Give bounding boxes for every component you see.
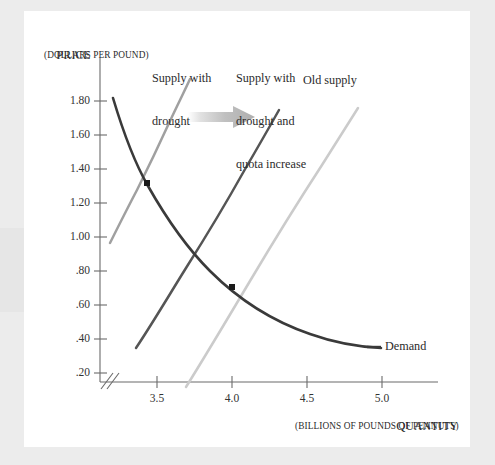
figure-root: PRICE (DOLLARS PER POUND) 1.80 1.60 1.40…: [0, 0, 495, 465]
x-tick-label: 5.0: [362, 392, 402, 406]
y-tick-label: 1.60: [54, 128, 90, 142]
y-tick-label: .60: [54, 298, 90, 312]
y-tick-label: .20: [54, 366, 90, 380]
curve-label-demand: Demand: [385, 339, 426, 353]
curve-label-supply-with-drought-and-quota-increase: Supply with drought and quota increase: [236, 42, 306, 200]
curve-label-supply-with-drought: Supply with drought: [152, 42, 211, 157]
x-axis-break-marks: [101, 373, 119, 389]
y-axis-subtitle: (DOLLARS PER POUND): [44, 50, 149, 61]
x-tick-label: 3.5: [137, 392, 177, 406]
curve-label-quota-line2: drought and: [236, 114, 306, 128]
y-tick-label: .40: [54, 332, 90, 346]
y-tick-label: 1.80: [54, 94, 90, 108]
curve-label-supply-with-drought-line1: Supply with: [152, 71, 211, 85]
equilibrium-dot-old: [229, 284, 235, 290]
x-tick-label: 4.5: [287, 392, 327, 406]
x-axis-subtitle: (BILLIONS OF POUNDS OF PEANUTS): [295, 421, 459, 432]
curve-label-quota-line1: Supply with: [236, 71, 306, 85]
y-tick-label: 1.40: [54, 162, 90, 176]
y-tick-label: 1.00: [54, 230, 90, 244]
curve-label-quota-line3: quota increase: [236, 157, 306, 171]
equilibrium-dot-new: [144, 180, 150, 186]
y-tick-label: 1.20: [54, 196, 90, 210]
curve-label-old-supply: Old supply: [303, 73, 357, 87]
curve-label-supply-with-drought-line2: drought: [152, 114, 211, 128]
y-tick-label: .80: [54, 264, 90, 278]
x-tick-label: 4.0: [212, 392, 252, 406]
